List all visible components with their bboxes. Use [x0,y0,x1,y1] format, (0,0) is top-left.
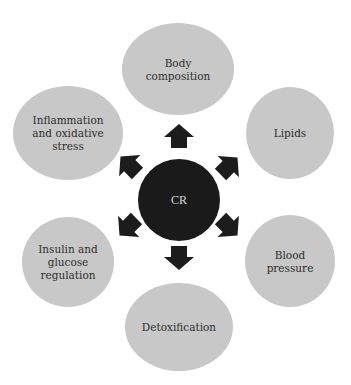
center-node-label: CR [171,193,187,207]
center-node-group: CR [138,159,220,241]
node-label-line: glucose [48,256,89,268]
node-label-line: Body [165,57,192,69]
node-label-line: Inflammation [32,114,103,126]
node-lipids: Lipids [246,87,334,179]
node-label: Lipids [274,127,307,139]
node-label-line: stress [52,140,84,152]
node-label-line: pressure [267,262,314,274]
node-label-line: composition [146,70,211,82]
node-label-line: and oxidative [32,127,103,139]
node-body-composition: Bodycomposition [122,23,234,115]
node-detoxification: Detoxification [125,283,233,371]
node-label: Detoxification [142,321,216,333]
node-label-line: Insulin and [38,243,98,255]
node-inflammation-oxidative-stress: Inflammationand oxidativestress [13,86,123,180]
node-label-line: Blood [275,249,306,261]
node-label-line: Lipids [274,127,307,139]
node-label-line: Detoxification [142,321,216,333]
cr-effects-diagram: BodycompositionLipidsBloodpressureDetoxi… [0,0,351,385]
node-insulin-glucose-regulation: Insulin andglucoseregulation [22,217,114,307]
node-blood-pressure: Bloodpressure [245,215,335,307]
node-label-line: regulation [41,269,96,281]
